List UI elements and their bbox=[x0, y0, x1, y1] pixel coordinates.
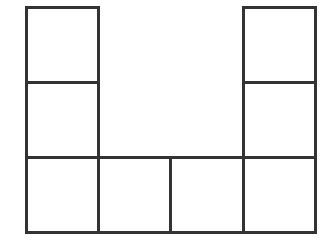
square-r2-c2 bbox=[169, 156, 245, 234]
square-r1-c3 bbox=[242, 81, 317, 159]
square-r0-c0 bbox=[25, 6, 100, 84]
square-r2-c3 bbox=[242, 156, 317, 234]
u-shape-diagram bbox=[0, 0, 325, 240]
square-r1-c0 bbox=[25, 81, 100, 159]
square-r2-c1 bbox=[97, 156, 173, 234]
square-r0-c3 bbox=[242, 6, 317, 84]
square-r2-c0 bbox=[25, 156, 100, 234]
